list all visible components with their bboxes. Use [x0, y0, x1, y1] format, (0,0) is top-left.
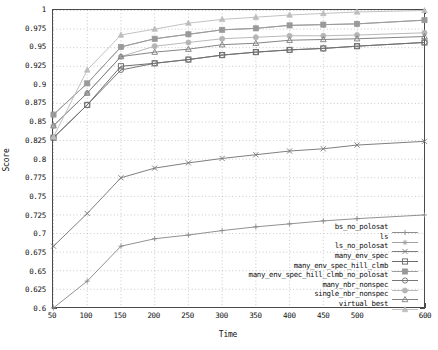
legend-entry-virtual_best[interactable]: virtual_best [339, 299, 418, 309]
legend-label: ls [380, 232, 388, 241]
y-tick-label: 0.75 [2, 191, 46, 200]
x-tick-label: 100 [80, 311, 93, 320]
y-tick-label: 0.975 [2, 23, 46, 32]
legend-label: virtual_best [339, 299, 388, 308]
x-tick-label: 600 [419, 311, 432, 320]
y-tick-label: 0.8 [2, 154, 46, 163]
legend-label: many_env_spec_hill_clmb [294, 261, 388, 270]
plot-top-margin [0, 0, 438, 9]
legend: bs_no_polosatlsls_no_polosatmany_env_spe… [218, 222, 418, 308]
series-many_nbr_nonspec [51, 30, 427, 128]
y-tick-label: 0.9 [2, 79, 46, 88]
legend-entry-many_env_spec_hill_clmb_no_polosat[interactable]: many_env_spec_hill_clmb_no_polosat [249, 270, 418, 280]
x-tick-label: 400 [283, 311, 296, 320]
x-tick-label: 350 [249, 311, 262, 320]
y-tick-label: 0.725 [2, 210, 46, 219]
series-virtual_best [51, 8, 428, 140]
legend-label: ls_no_polosat [335, 241, 388, 250]
legend-label: bs_no_polosat [335, 222, 388, 231]
y-tick-label: 0.625 [2, 285, 46, 294]
chart-root: Score Time 10.9750.950.9250.90.8750.850.… [0, 0, 438, 350]
legend-sample-cross-icon [392, 241, 418, 250]
legend-entry-ls[interactable]: ls [380, 232, 418, 242]
y-tick-label: 0.925 [2, 61, 46, 70]
legend-sample-square-open-icon [392, 251, 418, 260]
y-tick-label: 0.825 [2, 135, 46, 144]
series-ls [51, 18, 427, 118]
legend-sample-triangle-filled-icon [392, 299, 418, 308]
x-tick-label: 500 [351, 311, 364, 320]
y-tick-label: 0.95 [2, 42, 46, 51]
legend-sample-circle-filled-icon [392, 280, 418, 289]
x-tick-label: 250 [181, 311, 194, 320]
legend-label: many_env_spec [335, 251, 388, 260]
legend-entry-many_env_spec_hill_clmb[interactable]: many_env_spec_hill_clmb [294, 260, 418, 270]
x-tick-mark [425, 303, 426, 308]
series-many_env_spec_hill_clmb_no_polosat [51, 40, 427, 140]
x-tick-label: 450 [317, 311, 330, 320]
y-tick-label: 0.875 [2, 98, 46, 107]
legend-label: many_nbr_nonspec [322, 280, 388, 289]
legend-entry-many_nbr_nonspec[interactable]: many_nbr_nonspec [322, 280, 418, 290]
x-tick-label: 150 [113, 311, 126, 320]
legend-entry-ls_no_polosat[interactable]: ls_no_polosat [335, 241, 418, 251]
legend-sample-circle-open-icon [392, 270, 418, 279]
y-tick-label: 0.775 [2, 173, 46, 182]
y-tick-label: 0.65 [2, 266, 46, 275]
legend-sample-plus-icon [392, 222, 418, 231]
y-tick-label: 0.6 [2, 304, 46, 313]
legend-sample-square-filled-icon [392, 261, 418, 270]
x-tick-label: 300 [215, 311, 228, 320]
legend-entry-bs_no_polosat[interactable]: bs_no_polosat [335, 222, 418, 232]
y-tick-label: 1 [2, 5, 46, 14]
legend-label: single_nbr_nonspec [314, 289, 388, 298]
series-many_env_spec_hill_clmb [51, 18, 427, 118]
y-tick-mark-right [420, 308, 425, 309]
legend-label: many_env_spec_hill_clmb_no_polosat [249, 270, 388, 279]
series-single_nbr_nonspec [51, 34, 428, 128]
legend-sample-asterisk-icon [392, 232, 418, 241]
legend-entry-many_env_spec[interactable]: many_env_spec [335, 251, 418, 261]
legend-entry-single_nbr_nonspec[interactable]: single_nbr_nonspec [314, 289, 418, 299]
series-many_env_spec [51, 40, 427, 140]
x-tick-label: 200 [147, 311, 160, 320]
y-tick-label: 0.675 [2, 247, 46, 256]
legend-sample-triangle-open-icon [392, 289, 418, 298]
x-axis-title: Time [219, 330, 237, 339]
y-tick-label: 0.85 [2, 117, 46, 126]
x-tick-label: 50 [48, 311, 56, 320]
y-tick-label: 0.7 [2, 229, 46, 238]
